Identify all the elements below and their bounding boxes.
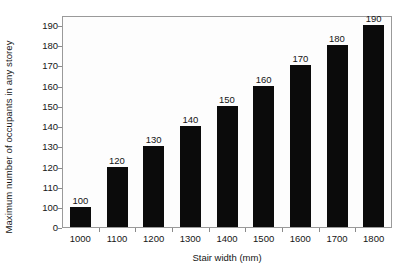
bar-value-label: 100 [62, 196, 99, 206]
bar-value-label: 130 [135, 135, 172, 145]
x-axis-tick-label: 1300 [172, 234, 209, 244]
bar-value-label: 180 [319, 34, 356, 44]
x-axis-tick-label: 1100 [99, 234, 136, 244]
x-axis-tick-label: 1800 [355, 234, 392, 244]
bar [143, 146, 164, 227]
bar [327, 45, 348, 227]
y-axis-tick-label: 160 [32, 82, 58, 92]
y-axis-tick-label: 110 [32, 183, 58, 193]
x-axis-title: Stair width (mm) [62, 252, 392, 263]
bar [253, 86, 274, 227]
x-axis-tick-mark [245, 228, 246, 232]
x-axis-tick-mark [99, 228, 100, 232]
bar [217, 106, 238, 227]
x-axis-tick-mark [172, 228, 173, 232]
x-axis-tick-mark [355, 228, 356, 232]
bar-value-label: 170 [282, 54, 319, 64]
x-axis-tick-label: 1700 [319, 234, 356, 244]
x-axis-tick-mark [282, 228, 283, 232]
y-axis-tick-label: 0 [32, 223, 58, 233]
plot-area [62, 16, 392, 228]
bar [290, 65, 311, 227]
bar-value-label: 160 [245, 75, 282, 85]
x-axis-tick-label: 1500 [245, 234, 282, 244]
y-axis-tick-label: 150 [32, 102, 58, 112]
bar-value-label: 150 [209, 95, 246, 105]
bar [70, 207, 91, 227]
y-axis-tick-label: 140 [32, 122, 58, 132]
bar-value-label: 120 [99, 156, 136, 166]
x-axis-tick-label: 1400 [209, 234, 246, 244]
bar [363, 25, 384, 227]
y-axis-tick-mark [58, 228, 62, 229]
bar-value-label: 140 [172, 115, 209, 125]
bar-value-label: 190 [355, 14, 392, 24]
bar-chart-figure: Maximum number of occupants in any store… [0, 0, 412, 274]
y-axis-title: Maximum number of occupants in any store… [0, 0, 16, 274]
x-axis-tick-mark [319, 228, 320, 232]
x-axis-tick-mark [209, 228, 210, 232]
bar [180, 126, 201, 227]
y-axis-tick-label: 180 [32, 41, 58, 51]
y-axis-tick-label: 190 [32, 21, 58, 31]
y-axis-tick-label: 130 [32, 142, 58, 152]
x-axis-tick-label: 1200 [135, 234, 172, 244]
x-axis-tick-label: 1000 [62, 234, 99, 244]
y-axis-tick-label: 120 [32, 163, 58, 173]
x-axis-tick-label: 1600 [282, 234, 319, 244]
bar [107, 167, 128, 227]
y-axis-tick-label: 170 [32, 61, 58, 71]
y-axis-tick-labels: 0100110120130140150160170180190 [32, 0, 58, 274]
y-axis-tick-label: 100 [32, 203, 58, 213]
x-axis-tick-mark [135, 228, 136, 232]
